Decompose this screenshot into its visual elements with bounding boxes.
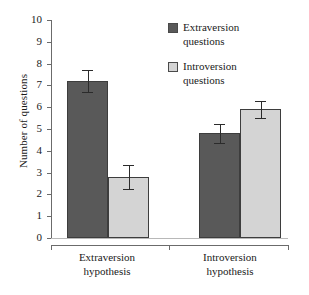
bar-0-0	[67, 81, 108, 238]
y-axis-tick-3: 3	[26, 167, 42, 178]
error-bar-stem-0-0	[88, 70, 89, 92]
x-axis-category-label-1: Introversion hypothesis	[171, 251, 289, 278]
y-axis-tick-9: 9	[26, 36, 42, 47]
y-axis-tick-mark	[47, 64, 52, 65]
legend-label-line-1: Extraversion	[183, 21, 239, 35]
y-axis-tick-5: 5	[26, 123, 42, 134]
error-bar-cap-upper	[255, 101, 266, 102]
y-axis-tick-mark	[47, 42, 52, 43]
error-bar-cap-upper	[82, 70, 93, 71]
legend-label-introversion: Introversion questions	[183, 60, 237, 87]
y-axis-tick-mark	[47, 173, 52, 174]
legend-label-line-2: questions	[183, 35, 239, 49]
error-bar-cap-upper	[214, 124, 225, 125]
legend-swatch-icon-light	[168, 62, 178, 72]
y-axis-tick-mark	[47, 129, 52, 130]
x-axis-tick-mark	[288, 245, 289, 250]
y-axis-tick-mark	[47, 85, 52, 86]
x-axis-tick-mark	[169, 245, 170, 250]
bar-chart: Number of questions 109876543210 Extrave…	[0, 0, 309, 295]
y-axis-tick-8: 8	[26, 58, 42, 69]
y-axis-tick-10: 10	[26, 14, 42, 25]
legend-label-line-2: questions	[183, 74, 237, 88]
y-axis-tick-2: 2	[26, 188, 42, 199]
error-bar-stem-1-1	[261, 101, 262, 118]
y-axis-tick-mark	[47, 20, 52, 21]
x-label-line-2: hypothesis	[48, 265, 166, 279]
x-label-line-1: Extraversion	[48, 251, 166, 265]
error-bar-stem-1-0	[220, 124, 221, 144]
y-axis-tick-mark	[47, 216, 52, 217]
x-label-line-2: hypothesis	[171, 265, 289, 279]
bar-baseline	[51, 238, 288, 239]
error-bar-cap-lower	[123, 189, 134, 190]
error-bar-cap-lower	[214, 143, 225, 144]
legend-swatch-icon-dark	[168, 23, 178, 33]
error-bar-cap-lower	[82, 92, 93, 93]
y-axis-tick-0: 0	[26, 232, 42, 243]
y-axis-tick-6: 6	[26, 101, 42, 112]
error-bar-stem-0-1	[129, 165, 130, 189]
x-label-line-1: Introversion	[171, 251, 289, 265]
y-axis-tick-mark	[47, 107, 52, 108]
y-axis-tick-mark	[47, 151, 52, 152]
legend-label-line-1: Introversion	[183, 60, 237, 74]
y-axis-tick-1: 1	[26, 210, 42, 221]
bar-1-1	[240, 109, 281, 238]
x-axis-line	[51, 245, 289, 246]
bar-1-0	[199, 133, 240, 238]
x-axis-category-label-0: Extraversion hypothesis	[48, 251, 166, 278]
error-bar-cap-upper	[123, 165, 134, 166]
error-bar-cap-lower	[255, 118, 266, 119]
y-axis-tick-mark	[47, 194, 52, 195]
x-axis-tick-mark	[51, 245, 52, 250]
y-axis-tick-7: 7	[26, 79, 42, 90]
y-axis-tick-4: 4	[26, 145, 42, 156]
legend-label-extraversion: Extraversion questions	[183, 21, 239, 48]
